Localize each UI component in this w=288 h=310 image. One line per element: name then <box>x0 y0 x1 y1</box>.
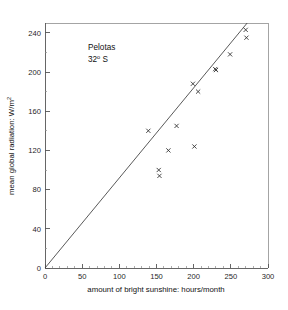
y-tick-label: 120 <box>28 146 41 155</box>
x-tick-label: 200 <box>187 272 200 281</box>
data-point-marker <box>157 168 161 172</box>
y-axis-tick-labels: 04080120160200240 <box>28 29 41 273</box>
data-series-markers <box>146 28 248 178</box>
x-axis-tick-labels: 050100150200250300 <box>43 272 274 281</box>
regression-line <box>45 23 247 268</box>
annotation-station-latitude: 32o S <box>88 54 109 64</box>
data-point-marker <box>244 36 248 40</box>
x-tick-label: 50 <box>78 272 86 281</box>
data-point-marker <box>196 90 200 94</box>
plot-frame <box>45 23 268 268</box>
x-axis-major-ticks <box>45 264 268 269</box>
data-point-marker <box>244 28 248 32</box>
latitude-value: 32 <box>88 55 98 64</box>
x-axis-title: amount of bright sunshine: hours/month <box>87 285 224 294</box>
data-point-marker <box>146 129 150 133</box>
y-axis-major-ticks <box>45 33 50 268</box>
data-point-marker <box>166 148 170 152</box>
y-axis-title-text: mean global radiation: W/m <box>7 100 16 195</box>
y-tick-label: 160 <box>28 107 41 116</box>
data-point-marker <box>228 52 232 56</box>
x-tick-label: 300 <box>262 272 275 281</box>
x-tick-label: 250 <box>224 272 237 281</box>
y-tick-label: 0 <box>37 264 41 273</box>
annotation-station-name: Pelotas <box>88 43 115 52</box>
y-axis-title: mean global radiation: W/m2 <box>6 97 16 195</box>
y-axis-unit-exponent: 2 <box>6 97 12 100</box>
y-tick-label: 80 <box>33 185 41 194</box>
y-tick-label: 40 <box>33 225 41 234</box>
data-point-marker <box>192 144 196 148</box>
regression-line-path <box>45 23 247 268</box>
data-point-marker <box>174 124 178 128</box>
chart-figure: 050100150200250300 04080120160200240 Pel… <box>0 0 288 310</box>
x-tick-label: 0 <box>43 272 47 281</box>
y-tick-label: 200 <box>28 68 41 77</box>
data-point-marker <box>191 82 195 86</box>
x-tick-label: 100 <box>113 272 126 281</box>
hemisphere-suffix: S <box>100 55 108 64</box>
x-tick-label: 150 <box>150 272 163 281</box>
y-tick-label: 240 <box>28 29 41 38</box>
scatter-plot-svg: 050100150200250300 04080120160200240 Pel… <box>0 0 288 310</box>
data-point-marker <box>157 174 161 178</box>
axis-lines <box>45 23 268 268</box>
